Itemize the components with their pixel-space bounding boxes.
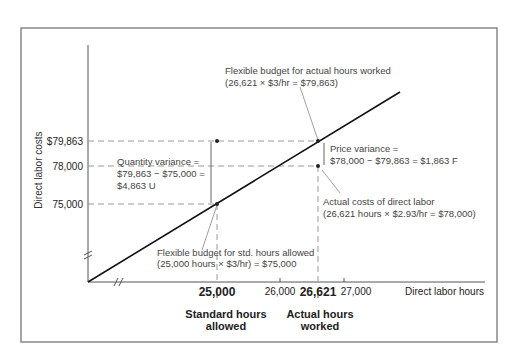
y-tick-75000: 75,000 — [52, 199, 83, 210]
quantity-variance-annotation-1: Quantity variance = — [117, 156, 200, 167]
flex-std-annotation-1: Flexible budget for std. hours allowed — [157, 247, 314, 258]
price-variance-annotation-2: $78,000 − $79,863 = $1,863 F — [330, 155, 458, 166]
y-tick-78000: 78,000 — [52, 161, 83, 172]
y-axis-label: Direct labor costs — [33, 131, 44, 208]
x-tick-26621: 26,621 — [300, 285, 337, 299]
x-axis-label: Direct labor hours — [405, 286, 484, 297]
flex-actual-annotation-2: (26,621 × $3/hr = $79,863) — [225, 77, 338, 88]
flex-std-annotation-2: (25,000 hours × $3/hr) = $75,000 — [157, 258, 296, 269]
x-tick-25000: 25,000 — [199, 285, 236, 299]
variance-chart: $79,863 78,000 75,000 Direct labor costs… — [0, 0, 515, 363]
price-variance-annotation-1: Price variance = — [330, 143, 399, 154]
actual-cost-annotation-2: (26,621 hours × $2.93/hr = $78,000) — [323, 208, 476, 219]
x-tick-27000: 27,000 — [341, 286, 372, 297]
actual-hours-label-2: worked — [300, 320, 340, 332]
quantity-variance-annotation-3: $4,863 U — [117, 180, 156, 191]
standard-hours-label-2: allowed — [206, 320, 246, 332]
leader-lines — [202, 87, 340, 250]
standard-hours-label-1: Standard hours — [185, 308, 266, 320]
x-tick-26000: 26,000 — [265, 286, 296, 297]
flex-actual-annotation-1: Flexible budget for actual hours worked — [225, 65, 391, 76]
actual-cost-annotation-1: Actual costs of direct labor — [323, 196, 434, 207]
actual-hours-label-1: Actual hours — [286, 308, 353, 320]
quantity-variance-annotation-2: $79,863 − $75,000 = — [117, 168, 205, 179]
y-tick-79863: $79,863 — [47, 136, 84, 147]
